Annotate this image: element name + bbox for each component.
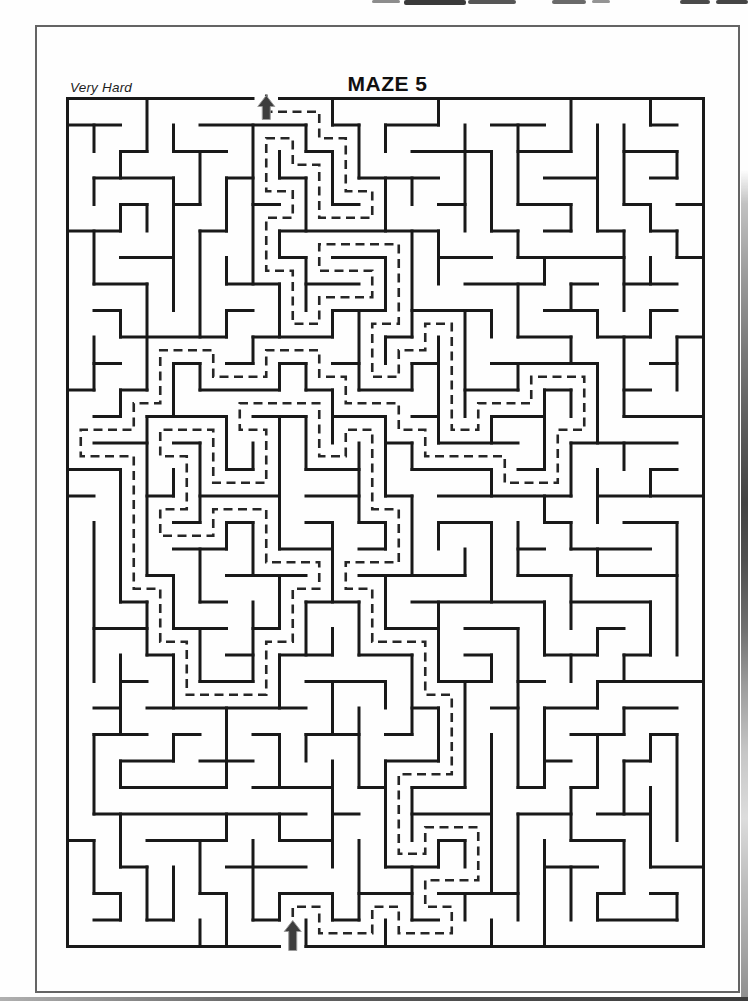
scan-smudge (680, 0, 710, 4)
scan-smudge (372, 0, 400, 3)
maze-start-arrow-bottom (284, 921, 301, 951)
maze-drawing (68, 95, 704, 951)
scan-smudge (552, 0, 586, 4)
maze-walls (68, 99, 704, 947)
scan-smudge (404, 0, 466, 5)
scanned-puzzle-page: Very Hard MAZE 5 (0, 0, 748, 1001)
scan-smudge (592, 0, 610, 3)
maze-exit-arrow-top (258, 96, 275, 120)
page-edge-line-bottom (0, 997, 748, 1001)
maze (35, 25, 740, 993)
scan-smudge (468, 0, 516, 4)
scan-smudge (716, 0, 748, 4)
page-edge-shadow-right (741, 170, 748, 1001)
